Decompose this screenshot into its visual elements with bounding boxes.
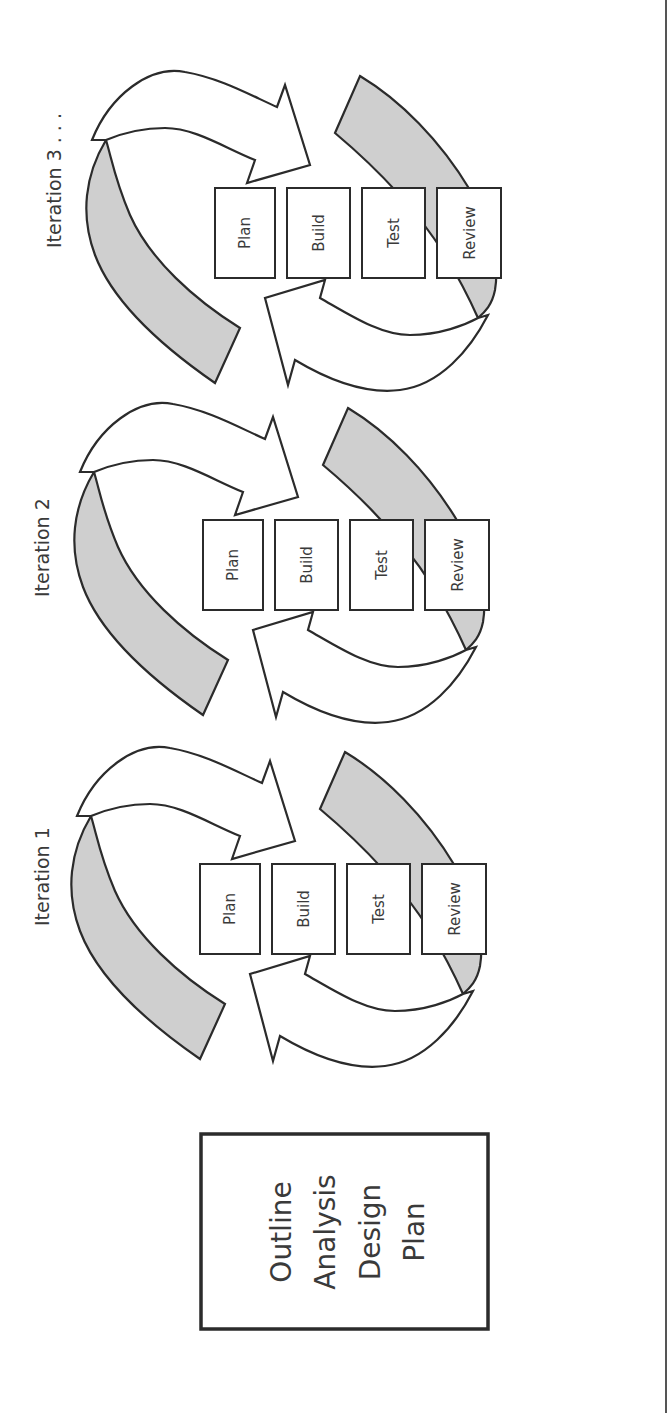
initial-planning-box: Outline Analysis Design Plan — [201, 1134, 488, 1329]
svg-text:Build: Build — [310, 214, 328, 252]
step-boxes: Plan Build Test Review — [215, 188, 501, 278]
iteration-title: Iteration 2 — [31, 498, 53, 597]
svg-text:Build: Build — [295, 890, 313, 928]
step-box-test: Test — [350, 520, 413, 610]
iteration-title: Iteration 3 . . . — [43, 113, 65, 248]
iterative-process-diagram: Iteration 3 . . . Plan Build Test Review… — [0, 0, 670, 1413]
svg-text:Plan: Plan — [224, 549, 242, 581]
step-box-test: Test — [362, 188, 425, 278]
step-box-build: Build — [272, 864, 335, 954]
svg-text:Test: Test — [373, 550, 391, 581]
svg-text:Review: Review — [449, 538, 467, 592]
svg-text:Build: Build — [298, 546, 316, 584]
step-box-plan: Plan — [200, 864, 260, 954]
outline-line-3: Design — [354, 1184, 387, 1281]
step-box-review: Review — [422, 864, 486, 954]
step-box-plan: Plan — [203, 520, 263, 610]
outline-line-4: Plan — [398, 1202, 431, 1262]
step-box-review: Review — [425, 520, 489, 610]
step-box-build: Build — [287, 188, 350, 278]
iteration-2: Iteration 2 Plan Build Test Review — [31, 403, 489, 723]
outline-line-1: Outline — [265, 1181, 298, 1282]
step-boxes: Plan Build Test Review — [203, 520, 489, 610]
step-box-test: Test — [347, 864, 410, 954]
svg-text:Plan: Plan — [221, 893, 239, 925]
svg-text:Plan: Plan — [236, 217, 254, 249]
step-box-plan: Plan — [215, 188, 275, 278]
step-box-review: Review — [437, 188, 501, 278]
svg-text:Test: Test — [385, 218, 403, 249]
iteration-3: Iteration 3 . . . Plan Build Test Review — [43, 71, 501, 391]
step-boxes: Plan Build Test Review — [200, 864, 486, 954]
svg-text:Review: Review — [461, 206, 479, 260]
iteration-1: Iteration 1 Plan Build Test Review — [31, 747, 486, 1067]
svg-text:Review: Review — [446, 882, 464, 936]
iteration-title: Iteration 1 — [31, 827, 53, 926]
outline-line-2: Analysis — [309, 1174, 342, 1289]
svg-text:Test: Test — [370, 894, 388, 925]
step-box-build: Build — [275, 520, 338, 610]
